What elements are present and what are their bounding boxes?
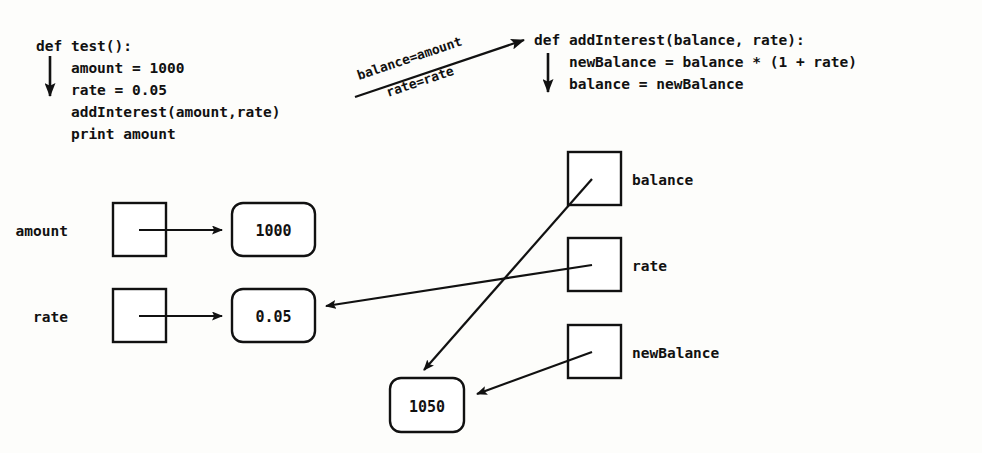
caller-variable-rate: rate 0.05 bbox=[33, 289, 315, 342]
diagram-page: def test(): amount = 1000 rate = 0.05 ad… bbox=[0, 0, 982, 453]
callee-variable-rate-box bbox=[568, 238, 621, 291]
value-box-005-text: 0.05 bbox=[255, 308, 291, 326]
caller-code-line-2: rate = 0.05 bbox=[36, 82, 167, 98]
callee-variable-balance-label: balance bbox=[632, 172, 693, 188]
caller-variable-rate-label: rate bbox=[33, 309, 68, 325]
value-box-1050-text: 1050 bbox=[409, 398, 445, 416]
caller-code-line-4: print amount bbox=[36, 126, 176, 142]
caller-variable-amount: amount 1000 bbox=[16, 203, 315, 256]
callee-code-block: def addInterest(balance, rate): newBalan… bbox=[534, 32, 857, 92]
callee-code-line-0: def addInterest(balance, rate): bbox=[534, 32, 805, 48]
value-box-1000-text: 1000 bbox=[255, 222, 291, 240]
callee-balance-pointer-arrow-icon bbox=[424, 179, 592, 370]
caller-code-line-1: amount = 1000 bbox=[36, 60, 184, 76]
callee-code-line-1: newBalance = balance * (1 + rate) bbox=[534, 54, 857, 70]
callee-variable-rate-label: rate bbox=[632, 258, 667, 274]
call-edge: balance=amount rate=rate bbox=[355, 34, 524, 100]
callee-variable-newbalance: newBalance bbox=[477, 325, 720, 394]
callee-variable-newbalance-label: newBalance bbox=[632, 345, 720, 361]
callee-code-line-2: balance = newBalance bbox=[534, 76, 744, 92]
function-call-diagram: def test(): amount = 1000 rate = 0.05 ad… bbox=[0, 0, 982, 453]
caller-code-line-3: addInterest(amount,rate) bbox=[36, 104, 280, 120]
caller-code-line-0: def test(): bbox=[36, 38, 132, 54]
caller-code-block: def test(): amount = 1000 rate = 0.05 ad… bbox=[36, 38, 280, 142]
value-box-1050-group: 1050 bbox=[390, 378, 464, 432]
callee-rate-pointer-arrow-icon bbox=[326, 265, 592, 306]
caller-variable-amount-label: amount bbox=[16, 223, 68, 239]
callee-variable-newbalance-box bbox=[568, 325, 621, 378]
callee-variable-rate: rate bbox=[326, 238, 667, 306]
